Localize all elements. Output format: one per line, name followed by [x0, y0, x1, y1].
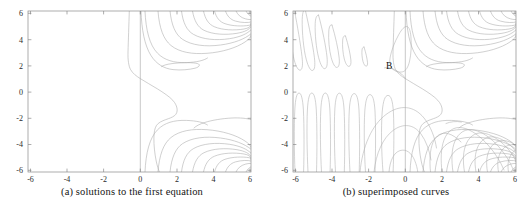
- loop-family-lower-left: [294, 93, 394, 172]
- arch: [360, 108, 437, 172]
- x-tick-label: -4: [329, 175, 336, 184]
- contour-arc: [204, 11, 252, 30]
- x-tick-label: 4: [212, 175, 216, 184]
- contour-family-upper-right: [145, 11, 251, 63]
- y-tick-labels-a: 6 4 2 0 -2 -4 -6: [16, 9, 23, 175]
- contour-arc: [469, 11, 517, 30]
- panel-b: B: [264, 0, 528, 213]
- y-tick-labels-b: 6 4 2 0 -2 -4 -6: [281, 9, 288, 175]
- x-tick-label: 2: [175, 175, 179, 184]
- loop-family-upper-left: [291, 11, 368, 71]
- panel-a: -6 -4 -2 0 2 4 6 6 4 2 0 -2 -4 -6: [0, 0, 264, 213]
- x-tick-labels-b: -6 -4 -2 0 2 4 6: [292, 175, 517, 184]
- slanted-loop: [291, 11, 303, 70]
- steep-arc: [452, 130, 513, 172]
- x-tick-label: 2: [440, 175, 444, 184]
- u-loop: [382, 95, 394, 172]
- contour-arc: [480, 11, 517, 26]
- caption-panel-b: (b) superimposed curves: [264, 186, 528, 197]
- contour-s-branch: [128, 11, 177, 172]
- y-tick-label: 6: [284, 9, 288, 18]
- u-loop: [307, 93, 317, 172]
- contour-family-lower-right: [145, 120, 251, 172]
- u-loop: [334, 93, 344, 172]
- u-loop: [294, 93, 304, 172]
- plot-a: -6 -4 -2 0 2 4 6 6 4 2 0 -2 -4 -6: [0, 0, 264, 186]
- y-tick-label: -2: [16, 114, 23, 123]
- annotation-label-b: B: [386, 61, 392, 71]
- contour-arc: [215, 11, 252, 26]
- y-tick-label: -4: [16, 140, 23, 149]
- u-loop: [320, 93, 330, 172]
- y-tick-label: 6: [19, 9, 23, 18]
- x-tick-label: -6: [292, 175, 299, 184]
- contour-group-a: [128, 11, 251, 172]
- steep-arc: [487, 141, 516, 172]
- slanted-loop: [343, 36, 351, 67]
- contour-family-upper-right: [410, 11, 516, 63]
- x-tick-label: 4: [477, 175, 481, 184]
- y-tick-label: -6: [16, 166, 23, 175]
- contour-s-branch: [393, 11, 442, 172]
- contour-hook-lower: [194, 118, 251, 128]
- connector-stroke: [446, 122, 462, 124]
- contour-arc: [204, 153, 252, 172]
- contour-arc: [215, 157, 252, 172]
- x-tick-label: 0: [403, 175, 407, 184]
- u-loop: [364, 95, 375, 172]
- slanted-loop: [329, 25, 340, 68]
- y-tick-label: 2: [284, 62, 288, 71]
- caption-panel-a: (a) solutions to the first equation: [0, 186, 264, 197]
- contour-arc: [501, 11, 516, 20]
- y-tickmarks-b: [293, 13, 516, 170]
- axes-a: -6 -4 -2 0 2 4 6 6 4 2 0 -2 -4 -6: [16, 9, 252, 184]
- slanted-loop: [362, 47, 368, 66]
- x-tick-label: 6: [248, 175, 252, 184]
- y-tick-label: -6: [281, 166, 288, 175]
- contour-arc: [423, 11, 516, 54]
- y-tickmarks-a: [28, 13, 251, 170]
- x-tick-label: 0: [138, 175, 142, 184]
- contour-arc: [158, 11, 251, 54]
- y-tick-label: 2: [19, 62, 23, 71]
- y-tick-label: -2: [281, 114, 288, 123]
- y-tick-label: 0: [19, 88, 23, 97]
- y-tick-label: 4: [19, 36, 23, 45]
- contour-hook-lower: [459, 118, 516, 128]
- y-tick-label: 4: [284, 36, 288, 45]
- contour-arc: [158, 129, 251, 172]
- x-tick-label: -6: [27, 175, 34, 184]
- x-tick-label: -2: [100, 175, 107, 184]
- x-tick-label: -2: [365, 175, 372, 184]
- contour-group-b: [291, 11, 516, 172]
- arch-family-lower-centre: [360, 108, 437, 172]
- figure-two-contour-panels: -6 -4 -2 0 2 4 6 6 4 2 0 -2 -4 -6: [0, 0, 528, 213]
- slanted-loop: [315, 15, 327, 69]
- y-tick-label: -4: [281, 140, 288, 149]
- plot-b: B: [264, 0, 528, 186]
- contour-arc: [236, 11, 251, 20]
- x-tick-labels-a: -6 -4 -2 0 2 4 6: [27, 175, 252, 184]
- y-tick-label: 0: [284, 88, 288, 97]
- u-loop: [349, 94, 360, 172]
- steep-arc: [430, 133, 461, 172]
- slanted-loop: [302, 11, 315, 71]
- x-tick-label: -4: [64, 175, 71, 184]
- x-tick-label: 6: [513, 175, 517, 184]
- contour-arc: [236, 163, 251, 172]
